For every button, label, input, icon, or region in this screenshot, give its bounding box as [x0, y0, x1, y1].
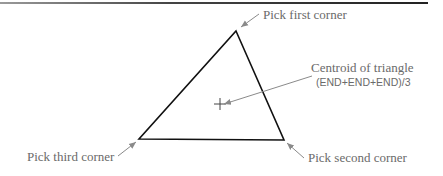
centroid-leader: [224, 76, 312, 104]
first-corner-leader: [241, 14, 259, 27]
diagram-canvas: Pick first corner Centroid of triangle (…: [0, 0, 443, 176]
triangle: [139, 31, 284, 140]
centroid-formula-label: (END+END+END)/3: [316, 77, 411, 88]
third-corner-label: Pick third corner: [27, 150, 114, 163]
second-corner-label: Pick second corner: [308, 151, 407, 164]
third-corner-leader: [118, 142, 136, 156]
centroid-title-label: Centroid of triangle: [311, 61, 414, 74]
first-corner-label: Pick first corner: [263, 8, 347, 21]
second-corner-leader: [287, 143, 304, 158]
